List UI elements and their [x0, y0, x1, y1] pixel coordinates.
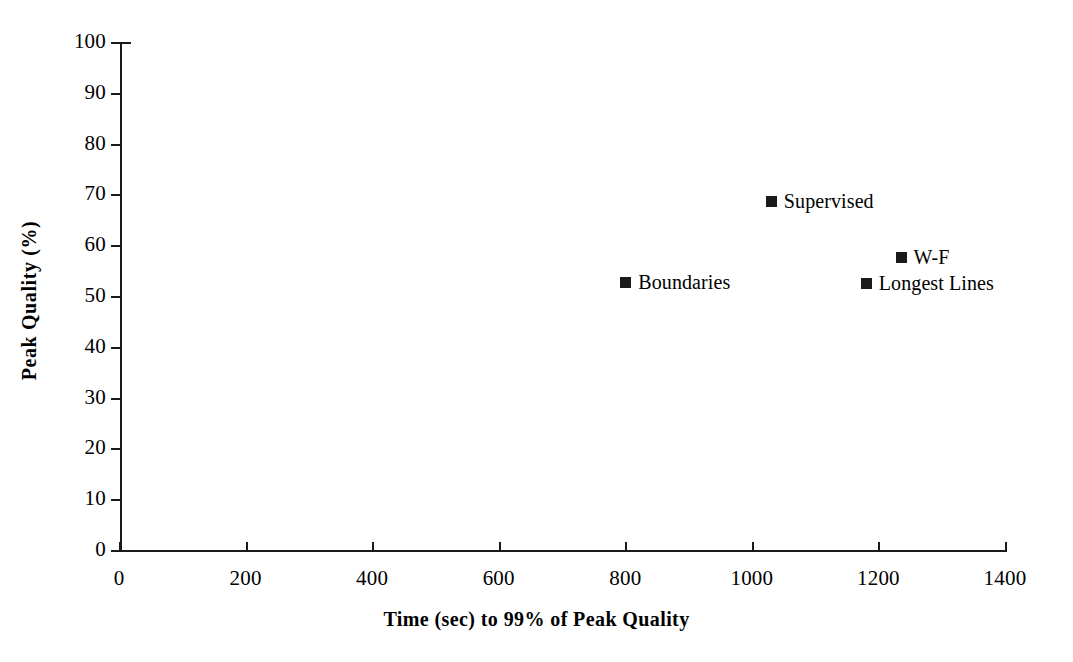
y-tick-mark: [111, 93, 122, 95]
y-tick-label: 0: [95, 539, 106, 560]
y-tick-mark: [111, 194, 122, 196]
data-point-marker: [620, 277, 631, 288]
x-tick-label: 200: [230, 568, 262, 589]
y-tick-mark: [111, 144, 122, 146]
y-tick-label: 60: [85, 234, 106, 255]
y-tick-mark: [111, 42, 131, 44]
x-tick-mark: [372, 542, 374, 552]
x-tick-label: 1400: [984, 568, 1027, 589]
data-point-label: Boundaries: [638, 272, 730, 293]
y-tick-label: 30: [85, 387, 106, 408]
x-tick-mark: [878, 542, 880, 552]
y-tick-mark: [111, 398, 122, 400]
y-tick-mark: [111, 296, 122, 298]
x-tick-label: 400: [356, 568, 388, 589]
x-tick-mark: [1005, 542, 1007, 552]
y-tick-mark: [111, 245, 122, 247]
x-tick-mark: [625, 542, 627, 552]
data-point-marker: [896, 252, 907, 263]
x-tick-label: 1000: [730, 568, 773, 589]
scatter-chart-figure: Peak Quality (%) 0102030405060708090100 …: [0, 0, 1073, 662]
x-tick-mark: [752, 542, 754, 552]
y-tick-label: 70: [85, 183, 106, 204]
y-tick-label: 50: [85, 285, 106, 306]
x-tick-label: 800: [609, 568, 641, 589]
y-axis-title: Peak Quality (%): [19, 220, 42, 380]
y-tick-mark: [111, 347, 122, 349]
y-tick-label: 20: [85, 437, 106, 458]
x-tick-mark: [246, 542, 248, 552]
x-tick-mark: [499, 542, 501, 552]
plot-area: 0102030405060708090100 02004006008001000…: [120, 43, 1006, 551]
x-tick-mark: [119, 542, 121, 552]
y-tick-mark: [111, 448, 122, 450]
y-tick-mark: [111, 499, 122, 501]
x-tick-label: 1200: [857, 568, 900, 589]
data-point-marker: [766, 196, 777, 207]
x-axis-title: Time (sec) to 99% of Peak Quality: [0, 608, 1073, 631]
data-point-label: Supervised: [784, 191, 874, 212]
x-tick-label: 600: [483, 568, 515, 589]
y-tick-label: 90: [85, 82, 106, 103]
y-tick-label: 10: [85, 488, 106, 509]
y-tick-label: 80: [85, 133, 106, 154]
x-axis-line: [120, 550, 1006, 552]
data-point-label: Longest Lines: [879, 273, 994, 294]
data-point-label: W-F: [914, 247, 950, 268]
y-tick-label: 40: [85, 336, 106, 357]
y-tick-label: 100: [74, 31, 106, 52]
data-point-marker: [861, 278, 872, 289]
y-axis-title-container: Peak Quality (%): [0, 0, 60, 600]
x-tick-label: 0: [114, 568, 125, 589]
